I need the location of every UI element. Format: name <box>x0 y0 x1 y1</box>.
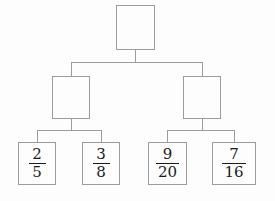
tree-node-branch-left[interactable] <box>52 76 90 119</box>
edge-root-to-branch-right <box>202 62 203 76</box>
fraction-2-numerator: 3 <box>94 147 108 163</box>
fraction-3-numerator: 9 <box>161 147 175 163</box>
fraction-1-numerator: 2 <box>30 147 44 163</box>
tree-node-root[interactable] <box>116 5 155 50</box>
edge-branch-left-bus <box>37 130 102 131</box>
edge-branch-right-bus <box>167 130 235 131</box>
tree-node-branch-right[interactable] <box>183 76 221 119</box>
tree-leaf-node-4[interactable]: 7 16 <box>212 142 256 185</box>
tree-leaf-node-2[interactable]: 3 8 <box>82 142 120 185</box>
fraction-3-denominator: 20 <box>156 164 179 180</box>
fraction-1: 2 5 <box>29 147 46 181</box>
edge-branch-left-to-leaf-1 <box>37 130 38 142</box>
fraction-4-denominator: 16 <box>222 164 245 180</box>
fraction-2: 3 8 <box>93 147 110 181</box>
tree-diagram: 2 5 3 8 9 20 7 16 <box>0 0 275 201</box>
tree-leaf-node-3[interactable]: 9 20 <box>148 142 187 185</box>
edge-branch-right-to-leaf-3 <box>167 130 168 142</box>
fraction-4: 7 16 <box>222 147 245 181</box>
edge-branch-right-to-leaf-4 <box>234 130 235 142</box>
edge-root-bus <box>71 62 203 63</box>
fraction-1-denominator: 5 <box>30 164 44 180</box>
edge-root-to-branch-left <box>71 62 72 76</box>
fraction-2-denominator: 8 <box>94 164 108 180</box>
fraction-4-numerator: 7 <box>227 147 241 163</box>
fraction-3: 9 20 <box>156 147 179 181</box>
edge-branch-left-to-leaf-2 <box>101 130 102 142</box>
tree-leaf-node-1[interactable]: 2 5 <box>18 142 56 185</box>
